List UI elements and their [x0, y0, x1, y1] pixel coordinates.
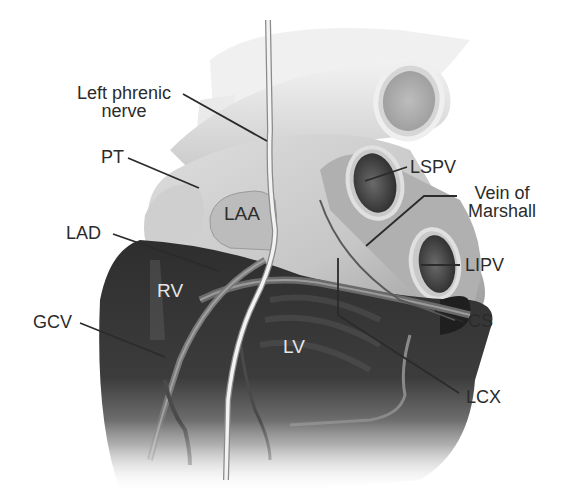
- label-lcx: LCX: [466, 388, 501, 406]
- label-vein-of-marshall-line2: Marshall: [460, 202, 544, 220]
- label-lad: LAD: [66, 224, 101, 242]
- label-lv: LV: [283, 338, 305, 356]
- label-cs: CS: [468, 312, 493, 330]
- label-left-phrenic-nerve-line2: nerve: [64, 102, 184, 120]
- label-lipv: LIPV: [465, 256, 504, 274]
- label-gcv: GCV: [33, 313, 72, 331]
- heart-illustration: [0, 0, 568, 497]
- label-laa: LAA: [224, 205, 260, 223]
- label-left-phrenic-nerve-line1: Left phrenic: [64, 84, 184, 102]
- label-vein-of-marshall-line1: Vein of: [460, 184, 544, 202]
- label-pt: PT: [101, 148, 124, 166]
- label-rv: RV: [157, 282, 183, 300]
- heart-anatomy-figure: Left phrenic nerve PT LAD GCV LSPV Vein …: [0, 0, 568, 497]
- label-lspv: LSPV: [410, 158, 456, 176]
- label-vein-of-marshall: Vein of Marshall: [460, 184, 544, 220]
- label-left-phrenic-nerve: Left phrenic nerve: [64, 84, 184, 120]
